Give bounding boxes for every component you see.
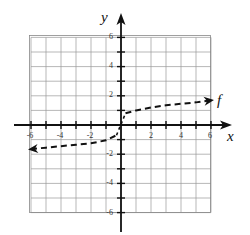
x-tick-label: -2: [87, 131, 94, 140]
y-tick-label: 6: [109, 32, 113, 41]
grid-border: [30, 36, 211, 213]
x-tick-label: 6: [208, 131, 212, 140]
y-tick-label: 2: [109, 90, 113, 99]
y-tick-label: -6: [106, 208, 113, 217]
curve-segment: [31, 135, 117, 149]
x-tick-label: -4: [57, 131, 64, 140]
curve-segment: [126, 100, 212, 113]
curve-label: f: [217, 92, 223, 108]
x-tick-label: -6: [27, 131, 34, 140]
y-tick-label: 4: [109, 61, 113, 70]
x-tick-label: 2: [149, 131, 153, 140]
y-axis-label: y: [99, 9, 108, 25]
x-tick-labels: -6 -4 -2 2 4 6: [27, 131, 212, 140]
coordinate-graph: -6 -4 -2 2 4 6 6 4 2 -2 -4 -6 x y f: [0, 0, 250, 235]
x-tick-label: 4: [179, 131, 183, 140]
y-tick-label: -4: [106, 178, 113, 187]
y-tick-label: -2: [106, 149, 113, 158]
x-axis-label: x: [226, 128, 234, 144]
